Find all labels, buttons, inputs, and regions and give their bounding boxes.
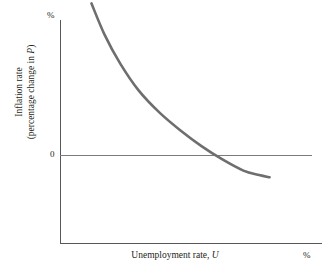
x-axis-title-text: Unemployment rate, <box>131 250 209 260</box>
y-axis-unit-label: % <box>47 10 55 20</box>
phillips-curve-line <box>91 3 269 177</box>
x-axis-title: Unemployment rate, U <box>60 250 290 260</box>
zero-reference-line <box>60 155 312 156</box>
x-axis-title-symbol: U <box>212 250 219 260</box>
y-axis-title-line2: (percentage change in P) <box>25 12 37 172</box>
phillips-curve-figure: % % 0 Inflation rate (percentage change … <box>0 0 328 273</box>
curve-layer <box>0 0 328 273</box>
x-axis-unit-label: % <box>303 250 311 260</box>
x-axis-line <box>60 243 322 244</box>
y-axis-tick-label-zero: 0 <box>50 149 55 159</box>
y-axis-title-line2-prefix: (percentage change in <box>26 54 36 140</box>
y-axis-line <box>60 20 61 244</box>
y-axis-title-line2-suffix: ) <box>26 45 36 48</box>
y-axis-title: Inflation rate (percentage change in P) <box>13 12 41 172</box>
y-axis-title-line2-symbol: P <box>26 48 36 54</box>
y-axis-title-line1: Inflation rate <box>13 12 25 172</box>
